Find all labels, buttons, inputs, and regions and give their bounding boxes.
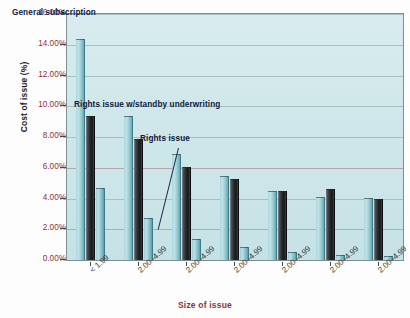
y-axis-tick-label: 6.00% — [12, 162, 66, 171]
y-axis: 16.00%14.00%12.00%10.00%8.00%6.00%4.00%2… — [0, 0, 66, 262]
y-axis-tick-label: 8.00% — [12, 131, 66, 140]
plot-area — [66, 13, 404, 261]
bar-chart-figure: Cost of issue (%) 16.00%14.00%12.00%10.0… — [0, 0, 410, 318]
bar — [326, 189, 336, 260]
annotation-standby-underwriting: Rights issue w/standby underwriting — [74, 100, 220, 109]
bar-cap — [124, 116, 133, 117]
annotation-rights-issue: Rights issue — [140, 134, 190, 143]
bar-cap — [86, 116, 95, 117]
bar-group — [307, 14, 355, 260]
bar — [76, 39, 86, 260]
bar-cap — [144, 218, 153, 219]
bar-cap — [240, 247, 249, 248]
y-axis-tick-label: 4.00% — [12, 193, 66, 202]
bar-cap — [326, 189, 335, 190]
bar-cap — [192, 239, 201, 240]
bar-group — [211, 14, 259, 260]
bar — [96, 188, 106, 260]
bar — [278, 191, 288, 260]
y-axis-tick-label: 14.00% — [12, 39, 66, 48]
bar — [220, 176, 230, 260]
bar — [86, 116, 96, 260]
bar-cap — [278, 191, 287, 192]
bar-cap — [288, 252, 297, 253]
y-axis-tick-label: 0.00% — [12, 254, 66, 263]
bar — [134, 139, 144, 260]
y-axis-tick-label: 12.00% — [12, 70, 66, 79]
bar-cap — [268, 191, 277, 192]
bar-group — [355, 14, 403, 260]
annotation-general-subscription: General subscription — [12, 8, 96, 17]
bar — [374, 199, 384, 260]
y-axis-tick-label: 10.00% — [12, 100, 66, 109]
x-axis-title: Size of issue — [0, 300, 410, 310]
bar — [316, 197, 326, 260]
bar — [268, 191, 278, 260]
bar-cap — [220, 176, 229, 177]
bar — [182, 167, 192, 260]
bar-cap — [374, 199, 383, 200]
bar-group — [67, 14, 115, 260]
bar-cap — [230, 179, 239, 180]
bar-cap — [96, 188, 105, 189]
bar-cap — [182, 167, 191, 168]
bar — [124, 116, 134, 260]
bar — [364, 198, 374, 260]
bar-cap — [316, 197, 325, 198]
bar-cap — [76, 39, 85, 40]
bar — [230, 179, 240, 260]
y-axis-tick-label: 2.00% — [12, 223, 66, 232]
bar-group — [259, 14, 307, 260]
bar-cap — [364, 198, 373, 199]
